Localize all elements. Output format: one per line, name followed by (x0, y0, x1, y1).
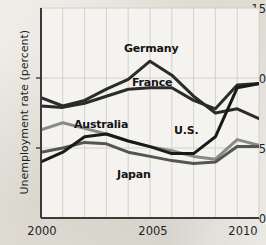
series-label-australia: Australia (74, 118, 128, 131)
plot-area (0, 0, 266, 245)
unemployment-rate-line-chart: Unemployment rate (percent) 15 10 5 0 20… (0, 0, 266, 245)
series-label-u-s: U.S. (174, 124, 198, 137)
series-label-japan: Japan (117, 168, 151, 181)
series-label-france: France (132, 76, 172, 89)
series-label-germany: Germany (124, 42, 178, 55)
